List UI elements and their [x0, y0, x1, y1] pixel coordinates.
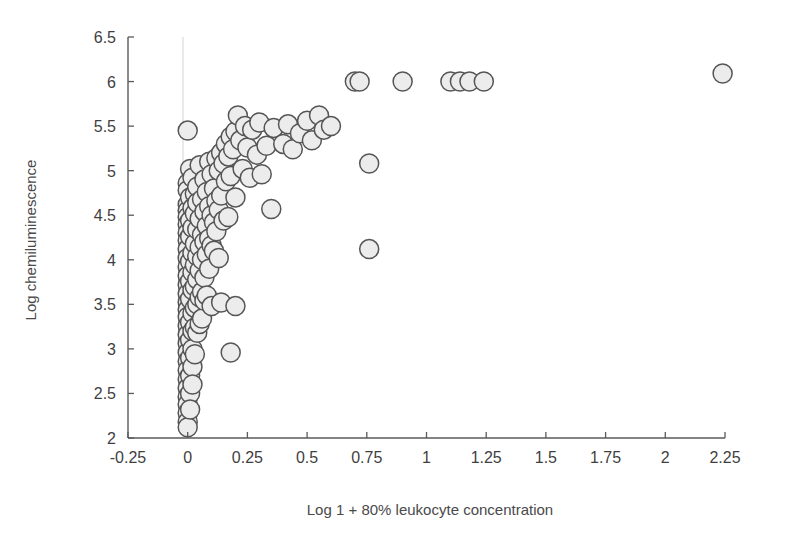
scatter-plot-figure: 22.533.544.555.566.5 -0.2500.250.50.7511…	[0, 0, 785, 552]
data-point	[321, 117, 340, 136]
data-point	[178, 121, 197, 140]
y-axis-label: Log chemiluminescence	[22, 160, 39, 321]
y-tick-label: 2	[107, 430, 116, 447]
y-tick-label: 6.5	[94, 29, 116, 46]
data-point	[181, 400, 200, 419]
data-point	[219, 208, 238, 227]
data-point	[209, 248, 228, 267]
x-tick-label: 1.25	[471, 449, 502, 466]
y-tick-label: 4	[107, 252, 116, 269]
data-point	[185, 345, 204, 364]
data-point	[360, 154, 379, 173]
x-tick-label: 1	[422, 449, 431, 466]
x-tick-label: 0.25	[232, 449, 263, 466]
y-tick-label: 3	[107, 341, 116, 358]
data-point	[221, 343, 240, 362]
data-point	[183, 375, 202, 394]
x-tick-label: 1.5	[535, 449, 557, 466]
y-tick-label: 6	[107, 74, 116, 91]
y-tick-label: 5	[107, 163, 116, 180]
data-point	[393, 72, 412, 91]
x-tick-label: -0.25	[110, 449, 147, 466]
data-point	[252, 165, 271, 184]
data-point	[360, 240, 379, 259]
x-tick-label: 0	[183, 449, 192, 466]
x-tick-label: 2	[661, 449, 670, 466]
data-point	[713, 64, 732, 83]
y-tick-label: 3.5	[94, 296, 116, 313]
data-point	[262, 199, 281, 218]
data-point	[226, 188, 245, 207]
x-tick-label: 1.75	[590, 449, 621, 466]
x-tick-label: 2.25	[709, 449, 740, 466]
data-point	[226, 297, 245, 316]
x-axis-label: Log 1 + 80% leukocyte concentration	[307, 501, 553, 518]
y-tick-label: 4.5	[94, 207, 116, 224]
y-tick-label: 5.5	[94, 118, 116, 135]
x-tick-label: 0.5	[296, 449, 318, 466]
y-tick-label: 2.5	[94, 385, 116, 402]
data-point	[474, 72, 493, 91]
data-point	[350, 72, 369, 91]
x-tick-label: 0.75	[351, 449, 382, 466]
